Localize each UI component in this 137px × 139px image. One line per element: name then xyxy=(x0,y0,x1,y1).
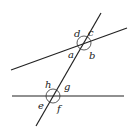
angle-label-g: g xyxy=(64,81,70,92)
angle-diagram: d c a b h g e f xyxy=(0,0,137,139)
angle-label-f: f xyxy=(56,103,63,114)
angle-label-c: c xyxy=(88,27,94,38)
angle-label-b: b xyxy=(89,50,95,61)
angle-label-e: e xyxy=(38,100,44,111)
angle-label-d: d xyxy=(74,28,80,39)
angle-label-h: h xyxy=(45,79,51,90)
angle-label-a: a xyxy=(68,49,74,60)
